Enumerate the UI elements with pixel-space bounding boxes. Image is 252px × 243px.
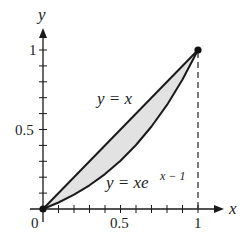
x-axis-arrow-icon [214,205,224,213]
label-y-equals-x: y = x [95,89,133,108]
y-axis-arrow-icon [39,28,47,38]
label-exponent: x − 1 [159,169,185,183]
x-axis-label: x [228,199,237,218]
y-tick-label-1: 1 [29,42,37,58]
y-axis [39,28,47,222]
x-tick-label-1: 1 [194,215,202,231]
label-y-equals-xe: y = xe [104,173,149,192]
point-origin [39,205,46,212]
area-between-curves-figure: x y 0 0.5 1 0.5 1 y = x y = xe x − 1 [0,0,252,243]
x-tick-label-0-5: 0.5 [110,215,129,231]
x-tick-label-0: 0 [31,215,39,231]
point-one-one [194,46,201,53]
y-axis-label: y [36,5,46,24]
y-tick-label-0-5: 0.5 [15,122,34,138]
x-axis [30,205,224,213]
